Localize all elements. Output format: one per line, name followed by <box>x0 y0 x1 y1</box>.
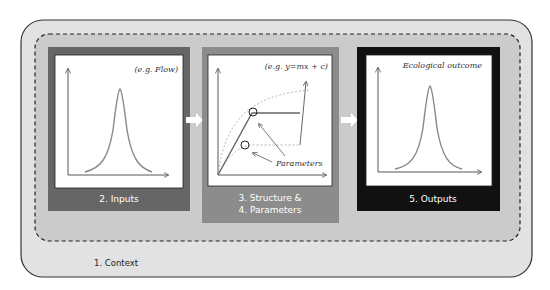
structure-label-line1: 3. Structure & <box>238 193 301 203</box>
structure-annotation: (e.g. y=mx + c) <box>265 62 328 71</box>
outputs-label: 5. Outputs <box>409 194 457 204</box>
outputs-annotation: Ecological outcome <box>402 61 483 70</box>
structure-panel: Parameters (e.g. y=mx + c) 3. Structure … <box>202 47 339 223</box>
context-diagram: (e.g. Flow) 2. Inputs Parameters (e.g. y… <box>0 0 550 290</box>
inputs-annotation: (e.g. Flow) <box>135 65 179 74</box>
outputs-panel: Ecological outcome 5. Outputs <box>357 47 500 211</box>
inputs-panel: (e.g. Flow) 2. Inputs <box>48 47 190 211</box>
parameters-callout: Parameters <box>275 159 323 168</box>
structure-label-line2: 4. Parameters <box>239 205 302 215</box>
inputs-label: 2. Inputs <box>99 194 139 204</box>
context-label: 1. Context <box>94 258 139 268</box>
